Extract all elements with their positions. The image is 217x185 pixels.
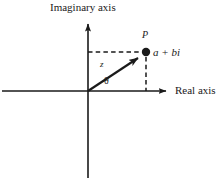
vector-z <box>88 58 138 91</box>
complex-plane-diagram: Imaginary axis Real axis P a + bi z θ <box>0 0 217 185</box>
real-axis-label: Real axis <box>175 85 216 96</box>
angle-theta-label: θ <box>104 76 109 86</box>
modulus-z-label: z <box>100 60 104 69</box>
point-p-label: P <box>142 30 148 40</box>
complex-number-label: a + bi <box>153 47 180 58</box>
point-p-marker <box>142 48 150 56</box>
imaginary-axis-label: Imaginary axis <box>50 2 116 13</box>
